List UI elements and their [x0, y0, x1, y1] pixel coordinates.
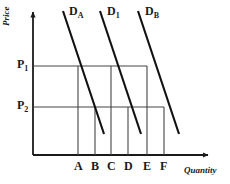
- curve-label-sub-d-a: A: [78, 11, 84, 20]
- drop-lines: [78, 66, 164, 155]
- x-tick-label-b: B: [91, 160, 99, 172]
- curve-label-base-d-a: D: [69, 4, 78, 18]
- curve-label-sub-d-b: B: [154, 11, 159, 20]
- y-axis-title: Price: [2, 7, 11, 27]
- curve-label-sub-d-1: 1: [116, 11, 120, 20]
- price-tick-label-p1: P1: [17, 58, 28, 73]
- price-lines: [33, 66, 164, 107]
- x-tick-label-d: D: [124, 160, 133, 172]
- curve-label-d-a: DA: [69, 5, 83, 20]
- price-tick-label-p2: P2: [17, 99, 28, 114]
- axes: [33, 12, 208, 155]
- demand-curve-figure: Price Quantity P1 P2 DA D1 DB ABCDEF: [0, 0, 230, 184]
- x-axis-title: Quantity: [184, 166, 217, 175]
- demand-curve-d-a: [63, 11, 104, 134]
- curve-label-d-1: D1: [107, 5, 120, 20]
- curve-label-d-b: DB: [145, 5, 159, 20]
- demand-curve-d-1: [100, 11, 141, 134]
- x-tick-label-f: F: [160, 160, 167, 172]
- x-tick-label-a: A: [74, 160, 83, 172]
- price-tick-sub-p2: 2: [24, 105, 28, 114]
- plot-canvas: [0, 0, 230, 184]
- demand-curve-d-b: [138, 11, 179, 134]
- demand-curves: [63, 11, 179, 134]
- curve-label-base-d-b: D: [145, 4, 154, 18]
- x-tick-label-c: C: [107, 160, 116, 172]
- price-tick-sub-p1: 1: [24, 64, 28, 73]
- curve-label-base-d-1: D: [107, 4, 116, 18]
- x-tick-label-e: E: [143, 160, 151, 172]
